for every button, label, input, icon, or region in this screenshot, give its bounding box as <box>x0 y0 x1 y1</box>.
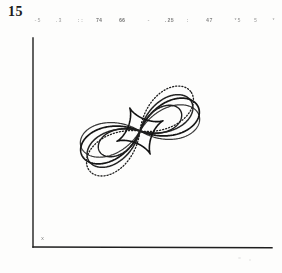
curve-group <box>80 86 199 176</box>
axes <box>33 38 272 248</box>
x-axis-origin-label: x <box>41 236 44 242</box>
scanned-page: 15 -5 .3 :: 74 66 - .25 : 47 *5 5 * <box>0 0 282 273</box>
scan-speckle <box>238 257 241 259</box>
scan-speckle <box>249 259 251 261</box>
curve-rose-mid-solid <box>98 105 181 157</box>
x-axis <box>33 247 272 248</box>
figure-plot <box>0 0 282 273</box>
